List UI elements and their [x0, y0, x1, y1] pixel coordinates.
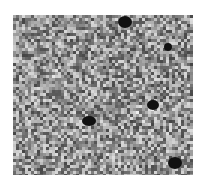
dark-particle [147, 100, 159, 110]
dark-particle [164, 43, 172, 51]
texture-canvas [13, 15, 193, 175]
dark-particle [118, 16, 132, 28]
dark-particle [82, 116, 96, 126]
dark-particle [168, 157, 182, 169]
micrograph-image [13, 15, 193, 175]
